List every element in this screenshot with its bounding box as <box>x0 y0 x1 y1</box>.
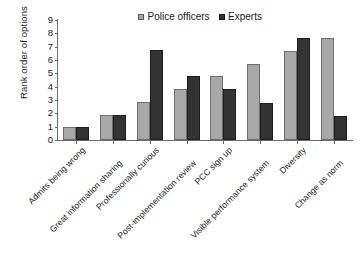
bar-police-officers <box>321 38 334 140</box>
bar-experts <box>334 116 347 140</box>
x-axis-category-label: Change as norm <box>292 158 344 210</box>
bar-experts <box>113 115 126 140</box>
x-axis-category-label: PCC sign up <box>193 145 235 187</box>
bar-group <box>168 20 205 140</box>
bar-police-officers <box>284 51 297 140</box>
legend-swatch-icon-experts <box>219 14 225 20</box>
bar-group <box>315 20 352 140</box>
bar-police-officers <box>210 76 223 140</box>
bar-group <box>279 20 316 140</box>
bar-experts <box>76 127 89 140</box>
x-axis-tick-mark <box>297 140 298 144</box>
bar-experts <box>297 38 310 140</box>
bar-experts <box>223 89 236 140</box>
y-axis-tick-mark <box>55 140 58 141</box>
bar-group <box>132 20 169 140</box>
bar-group <box>58 20 95 140</box>
bar-group <box>95 20 132 140</box>
x-axis-tick-mark <box>223 140 224 144</box>
x-axis-tick-mark <box>260 140 261 144</box>
x-axis-tick-mark <box>150 140 151 144</box>
bar-police-officers <box>137 102 150 140</box>
legend-swatch-icon-police-officers <box>138 14 144 20</box>
bar-group <box>242 20 279 140</box>
bar-experts <box>150 50 163 140</box>
x-axis-line <box>57 140 353 141</box>
bar-experts <box>260 103 273 140</box>
bar-police-officers <box>247 64 260 140</box>
bar-chart: Rank order of options Police officers Ex… <box>0 0 363 256</box>
y-axis-title: Rank order of options <box>18 0 29 113</box>
x-axis-tick-mark <box>76 140 77 144</box>
x-axis-tick-mark <box>187 140 188 144</box>
bar-police-officers <box>174 89 187 140</box>
plot-area: 0123456789 <box>58 20 352 140</box>
bar-experts <box>187 76 200 140</box>
x-axis-tick-mark <box>113 140 114 144</box>
x-axis-tick-mark <box>334 140 335 144</box>
bar-group <box>205 20 242 140</box>
x-axis-category-label: Diversity <box>277 145 308 176</box>
bar-police-officers <box>63 127 76 140</box>
bar-police-officers <box>100 115 113 140</box>
